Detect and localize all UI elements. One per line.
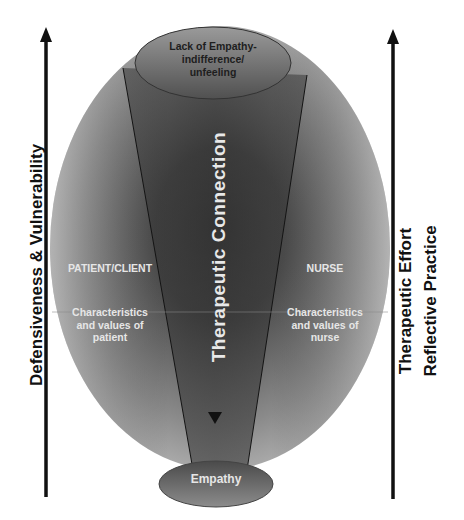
nurse-description-line-1: Characteristics (276, 306, 374, 319)
top-ellipse-label: Lack of Empathy- indifference/ unfeeling (140, 40, 286, 79)
right-axis-label-2: Reflective Practice (420, 196, 442, 406)
patient-description: Characteristics and values of patient (52, 306, 168, 344)
patient-description-line-3: patient (52, 331, 168, 344)
nurse-description-line-3: nurse (276, 331, 374, 344)
top-ellipse-line-3: unfeeling (140, 66, 286, 79)
nurse-heading: NURSE (280, 262, 370, 274)
nurse-description-line-2: and values of (276, 319, 374, 332)
left-axis-label: Defensiveness & Vulnerability (26, 115, 48, 415)
therapeutic-connection-diagram: Lack of Empathy- indifference/ unfeeling… (0, 0, 464, 520)
patient-description-line-1: Characteristics (52, 306, 168, 319)
left-axis-arrowhead-icon (40, 27, 52, 42)
top-ellipse-line-2: indifference/ (140, 53, 286, 66)
nurse-description: Characteristics and values of nurse (276, 306, 374, 344)
patient-description-line-2: and values of (52, 319, 168, 332)
bottom-ellipse-label: Empathy (166, 472, 266, 486)
right-axis-arrowhead-icon (387, 29, 399, 44)
top-ellipse-line-1: Lack of Empathy- (140, 40, 286, 53)
patient-heading: PATIENT/CLIENT (52, 262, 168, 274)
therapeutic-connection-label: Therapeutic Connection (206, 127, 232, 367)
right-axis-label-1: Therapeutic Effort (395, 196, 417, 406)
